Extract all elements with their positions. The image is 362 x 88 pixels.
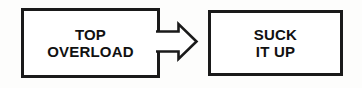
flow-node-source-line-1: TOP bbox=[75, 26, 106, 43]
flow-node-source[interactable]: TOP OVERLOAD bbox=[21, 8, 160, 78]
flow-node-target[interactable]: SUCK IT UP bbox=[208, 10, 343, 76]
diagram-canvas: TOP OVERLOAD SUCK IT UP bbox=[0, 0, 362, 88]
flow-node-target-line-1: SUCK bbox=[254, 26, 297, 43]
flow-node-source-line-2: OVERLOAD bbox=[47, 43, 134, 60]
flow-node-target-line-2: IT UP bbox=[256, 43, 295, 60]
block-arrow-right-icon bbox=[155, 20, 201, 64]
